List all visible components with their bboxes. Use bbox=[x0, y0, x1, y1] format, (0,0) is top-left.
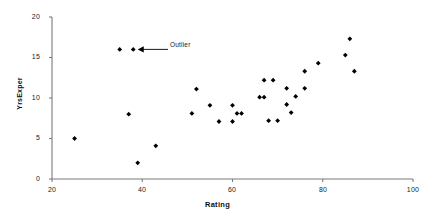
outlier-annotation-label: Outlier bbox=[170, 41, 191, 48]
plot-area bbox=[0, 0, 435, 220]
scatter-chart: 0 5 10 15 20 20 40 60 80 100 Rating YrsE… bbox=[0, 0, 435, 220]
y-tick-label-10: 10 bbox=[26, 94, 40, 101]
data-points bbox=[72, 36, 357, 165]
x-tick-label-20: 20 bbox=[42, 186, 62, 193]
y-tick-label-15: 15 bbox=[26, 53, 40, 60]
x-tick-label-40: 40 bbox=[132, 186, 152, 193]
x-tick-label-80: 80 bbox=[313, 186, 333, 193]
axes bbox=[49, 17, 413, 182]
y-tick-label-5: 5 bbox=[26, 134, 40, 141]
y-tick-label-20: 20 bbox=[26, 13, 40, 20]
outlier-arrow bbox=[138, 46, 168, 52]
x-axis-title: Rating bbox=[0, 200, 435, 209]
x-tick-label-60: 60 bbox=[222, 186, 242, 193]
x-tick-label-100: 100 bbox=[403, 186, 423, 193]
y-tick-label-0: 0 bbox=[26, 175, 40, 182]
y-axis-title: YrsExper bbox=[16, 64, 23, 124]
